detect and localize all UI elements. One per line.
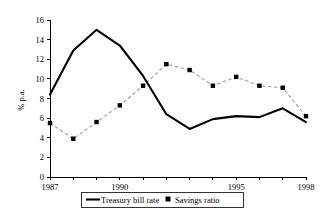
data-point-marker bbox=[281, 86, 285, 90]
data-point-marker bbox=[187, 68, 191, 72]
data-point-marker bbox=[234, 75, 238, 79]
y-tick-label: 14 bbox=[36, 35, 45, 45]
x-tick-label: 1995 bbox=[228, 182, 245, 192]
data-point-marker bbox=[141, 84, 145, 88]
x-tick-label: 1998 bbox=[298, 182, 315, 192]
y-tick-label: 12 bbox=[36, 54, 45, 64]
legend-label-treasury-bill-rate: Treasury bill rate bbox=[101, 195, 159, 205]
series-line-savings-ratio bbox=[50, 64, 306, 139]
y-tick-label: 10 bbox=[36, 74, 45, 84]
data-point-marker bbox=[48, 121, 52, 125]
x-tick-label: 1990 bbox=[111, 182, 128, 192]
y-tick-label: 8 bbox=[40, 94, 44, 104]
y-tick-label: 16 bbox=[36, 15, 45, 25]
data-point-marker bbox=[304, 114, 308, 118]
y-axis-title: % p.a. bbox=[16, 89, 26, 110]
data-point-marker bbox=[118, 103, 122, 107]
line-chart: % p.a. 0246810121416 1987199019951998 Tr… bbox=[0, 0, 324, 216]
data-point-marker bbox=[211, 84, 215, 88]
data-point-marker bbox=[71, 137, 75, 141]
data-point-marker bbox=[257, 84, 261, 88]
y-axis-title-group: % p.a. bbox=[16, 89, 26, 110]
x-axis-tick-labels: 1987199019951998 bbox=[42, 182, 315, 192]
series-line-treasury-bill-rate bbox=[50, 30, 306, 129]
x-tick-label: 1987 bbox=[42, 182, 59, 192]
y-tick-label: 6 bbox=[40, 113, 44, 123]
legend-label-savings-ratio: Savings ratio bbox=[175, 195, 220, 205]
y-tick-label: 2 bbox=[40, 152, 44, 162]
legend-square-sample bbox=[166, 197, 171, 202]
data-point-marker bbox=[94, 120, 98, 124]
legend: Treasury bill rate Savings ratio bbox=[81, 192, 243, 207]
y-tick-label: 0 bbox=[40, 172, 44, 182]
data-point-marker bbox=[164, 62, 168, 66]
y-axis-tick-labels: 0246810121416 bbox=[36, 15, 45, 182]
y-tick-label: 4 bbox=[40, 133, 45, 143]
chart-container: % p.a. 0246810121416 1987199019951998 Tr… bbox=[0, 0, 324, 216]
